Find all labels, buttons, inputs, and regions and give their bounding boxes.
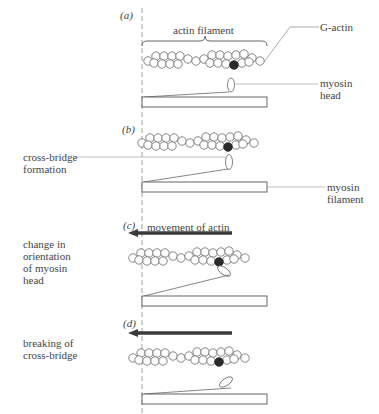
actin-filament-d (129, 347, 249, 367)
panel-label-a: (a) (120, 9, 133, 21)
myosin-filament-label: myosin filament (327, 181, 364, 205)
actin-filament-label: actin filament (173, 24, 234, 36)
panel-label-c: (c) (123, 219, 135, 231)
g-actin-label: G-actin (320, 21, 353, 33)
myosin-head-b (226, 155, 233, 170)
actin-filament-brace (142, 36, 267, 46)
change-orientation-label: change in orientation of myosin head (23, 238, 71, 286)
myosin-filament-d (142, 394, 267, 404)
myosin-head-d (218, 375, 234, 389)
movement-of-actin-label: movement of actin (147, 221, 229, 233)
g-actin-leader (264, 27, 319, 62)
myosin-neck-a (144, 92, 229, 97)
myosin-neck-b (144, 169, 228, 182)
cross-bridge-formation-label: cross-bridge formation (23, 151, 77, 175)
myosin-head-label: myosin head (320, 77, 352, 101)
panel-label-d: (d) (123, 317, 136, 329)
arrowhead-d (128, 329, 138, 337)
actin-filament-a (144, 50, 264, 70)
myosin-neck-d (144, 388, 231, 394)
actin-filament-b (138, 132, 258, 152)
myosin-filament-a (142, 97, 267, 107)
myosin-head-a (228, 78, 235, 92)
myosin-neck-c (144, 275, 229, 296)
breaking-cross-bridge-label: breaking of cross-bridge (23, 337, 77, 361)
panel-label-b: (b) (122, 123, 135, 135)
myosin-filament-b (142, 182, 267, 192)
actin-filament-c (129, 247, 249, 266)
myosin-filament-c (142, 296, 267, 306)
